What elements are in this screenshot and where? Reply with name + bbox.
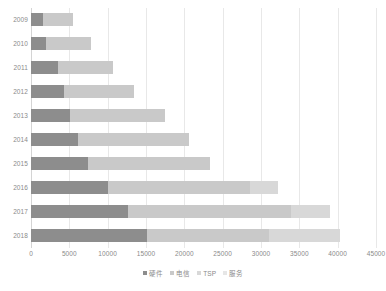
bar-segment bbox=[70, 109, 165, 122]
bar-segment bbox=[108, 181, 250, 194]
legend-swatch-icon bbox=[170, 271, 174, 275]
x-tick-10000: 10000 bbox=[98, 250, 117, 257]
bar-segment bbox=[88, 157, 210, 170]
bar-row bbox=[31, 128, 376, 152]
category-label-2010: 2010 bbox=[2, 40, 28, 47]
legend-label: 电信 bbox=[176, 268, 190, 278]
legend-label: TSP bbox=[203, 270, 216, 277]
bar-segment bbox=[31, 157, 88, 170]
plot-area bbox=[31, 8, 376, 248]
legend-swatch-icon bbox=[223, 271, 227, 275]
bar-segment bbox=[58, 61, 113, 74]
bar-row bbox=[31, 8, 376, 32]
stacked-bar bbox=[31, 157, 210, 170]
x-axis-tick-labels: 0500010000150002000025000300003500040000… bbox=[31, 250, 376, 262]
category-label-2015: 2015 bbox=[2, 160, 28, 167]
stacked-bar bbox=[31, 205, 330, 218]
bar-segment bbox=[269, 229, 340, 242]
bar-row bbox=[31, 176, 376, 200]
legend-swatch-icon bbox=[143, 271, 147, 275]
bar-row bbox=[31, 56, 376, 80]
category-label-2018: 2018 bbox=[2, 232, 28, 239]
x-tick-0: 0 bbox=[29, 250, 33, 257]
bar-segment bbox=[64, 85, 135, 98]
bar-segment bbox=[147, 229, 270, 242]
bar-segment bbox=[31, 61, 58, 74]
bar-segment bbox=[128, 205, 291, 218]
stacked-bar bbox=[31, 85, 135, 98]
category-label-2016: 2016 bbox=[2, 184, 28, 191]
legend-label: 硬件 bbox=[149, 268, 163, 278]
bar-segment bbox=[31, 109, 70, 122]
stacked-bar bbox=[31, 133, 189, 146]
legend-item-2[interactable]: TSP bbox=[197, 270, 216, 277]
category-label-2011: 2011 bbox=[2, 64, 28, 71]
stacked-bar bbox=[31, 13, 73, 26]
stacked-bar-chart: 2009201020112012201320142015201620172018… bbox=[0, 0, 386, 291]
stacked-bar bbox=[31, 229, 340, 242]
bar-row bbox=[31, 224, 376, 248]
bar-segment bbox=[31, 85, 64, 98]
bar-segment bbox=[43, 13, 73, 26]
x-tick-45000: 45000 bbox=[367, 250, 386, 257]
bar-segment bbox=[31, 133, 78, 146]
bar-row bbox=[31, 152, 376, 176]
bar-segment bbox=[31, 205, 128, 218]
stacked-bar bbox=[31, 181, 278, 194]
bar-segment bbox=[46, 37, 91, 50]
stacked-bar bbox=[31, 109, 165, 122]
category-label-2014: 2014 bbox=[2, 136, 28, 143]
category-label-2017: 2017 bbox=[2, 208, 28, 215]
legend-swatch-icon bbox=[197, 271, 201, 275]
x-tick-5000: 5000 bbox=[62, 250, 77, 257]
stacked-bar bbox=[31, 61, 113, 74]
x-tick-35000: 35000 bbox=[290, 250, 309, 257]
category-axis: 2009201020112012201320142015201620172018 bbox=[0, 8, 28, 248]
x-tick-20000: 20000 bbox=[175, 250, 194, 257]
category-label-2013: 2013 bbox=[2, 112, 28, 119]
bar-segment bbox=[31, 13, 43, 26]
bar-segment bbox=[31, 181, 108, 194]
x-tick-15000: 15000 bbox=[137, 250, 156, 257]
bar-segment bbox=[250, 181, 278, 194]
bar-row bbox=[31, 80, 376, 104]
legend-item-0[interactable]: 硬件 bbox=[143, 268, 163, 278]
bar-row bbox=[31, 104, 376, 128]
gridline bbox=[376, 8, 377, 248]
legend-item-3[interactable]: 服务 bbox=[223, 268, 243, 278]
category-label-2012: 2012 bbox=[2, 88, 28, 95]
x-tick-25000: 25000 bbox=[213, 250, 232, 257]
legend-item-1[interactable]: 电信 bbox=[170, 268, 190, 278]
bar-segment bbox=[291, 205, 330, 218]
bar-segment bbox=[31, 37, 46, 50]
x-tick-30000: 30000 bbox=[252, 250, 271, 257]
bar-segment bbox=[78, 133, 189, 146]
category-label-2009: 2009 bbox=[2, 16, 28, 23]
chart-legend: 硬件电信TSP服务 bbox=[0, 268, 386, 278]
bar-row bbox=[31, 32, 376, 56]
bar-row bbox=[31, 200, 376, 224]
stacked-bar bbox=[31, 37, 91, 50]
x-tick-40000: 40000 bbox=[328, 250, 347, 257]
legend-label: 服务 bbox=[229, 268, 243, 278]
bar-segment bbox=[31, 229, 147, 242]
